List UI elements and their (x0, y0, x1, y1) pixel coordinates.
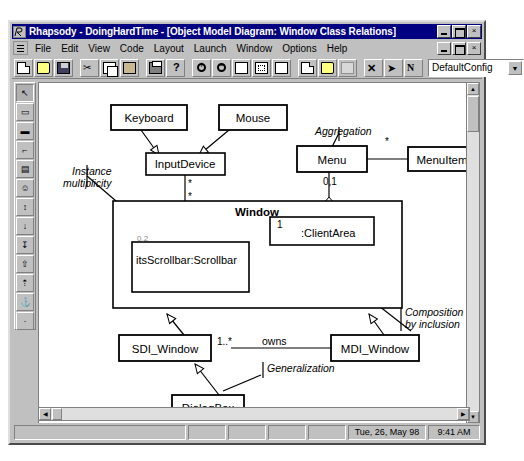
class-scrollbar-label: itsScrollbar:Scrollbar (136, 254, 237, 266)
dependency-tool[interactable]: ⇡ (16, 274, 34, 292)
class-scrollbar[interactable]: itsScrollbar:Scrollbar 0,2 (132, 234, 249, 292)
properties-icon[interactable] (338, 59, 357, 77)
diagram-canvas-frame[interactable]: Window itsScrollbar:Scrollbar 0,2 1 :Cli… (38, 82, 470, 424)
annotation-generalization: Generalization (267, 362, 335, 374)
mdi-minimize-button[interactable] (437, 42, 451, 55)
mdi-restore-button[interactable] (452, 42, 466, 55)
help-icon[interactable] (166, 59, 185, 77)
aggregation-tool[interactable]: ↓ (16, 217, 34, 235)
document-menu-icon[interactable] (13, 41, 28, 55)
browse-icon[interactable] (318, 59, 337, 77)
association-tool[interactable]: ↕ (16, 198, 34, 216)
status-date: Tue, 26, May 98 (348, 425, 426, 440)
horizontal-scroll-thumb[interactable] (52, 408, 62, 420)
status-bar: Tue, 26, May 98 9:41 AM (12, 423, 482, 441)
menu-item-view[interactable]: View (83, 42, 115, 55)
rhapsody-icon (13, 26, 26, 38)
composition-tool[interactable]: ↧ (16, 236, 34, 254)
multiplicity-inputdevice-bottom: * (188, 191, 192, 202)
rhapsody-logo-glyph (14, 27, 25, 37)
generalization-keyboard-inputdevice (141, 130, 159, 155)
select-tool[interactable]: ↖ (16, 84, 34, 102)
cut-icon[interactable]: ✂ (80, 59, 99, 77)
scroll-right-button[interactable]: ▶ (457, 408, 469, 420)
class-keyboard[interactable]: Keyboard (111, 105, 187, 130)
class-menu[interactable]: Menu (297, 146, 367, 172)
multiplicity-clientarea: 1 (277, 219, 283, 230)
next-icon[interactable]: N (404, 59, 423, 77)
status-pane-4 (308, 425, 346, 440)
annotation-instance: Instance (72, 165, 112, 177)
class-inputdevice[interactable]: InputDevice (146, 153, 225, 175)
menu-item-window[interactable]: Window (232, 42, 278, 55)
menu-item-code[interactable]: Code (115, 42, 149, 55)
menu-item-help[interactable]: Help (322, 42, 353, 55)
class-mdi-window-label: MDI_Window (341, 343, 410, 355)
anchor-tool[interactable]: ⚓ (16, 293, 34, 311)
class-clientarea[interactable]: 1 :ClientArea (270, 217, 374, 245)
main-toolbar: ✂ ✕ ➤ N DefaultConfig ▼ (12, 57, 482, 79)
title-bar: Rhapsody - DoingHardTime - [Object Model… (12, 24, 482, 39)
generalization-mouse-inputdevice (199, 130, 229, 155)
delete-icon[interactable]: ✕ (364, 59, 383, 77)
generalization-tool[interactable]: ⇧ (16, 255, 34, 273)
print-icon[interactable] (146, 59, 165, 77)
scroll-up-button[interactable]: ▲ (467, 83, 479, 95)
close-button[interactable]: × (467, 25, 481, 38)
horizontal-scrollbar[interactable]: ◀ ▶ (38, 407, 470, 421)
menu-item-options[interactable]: Options (277, 42, 321, 55)
class-sdi-window-label: SDI_Window (132, 343, 199, 355)
class-mouse[interactable]: Mouse (219, 105, 287, 130)
label-owns: owns (262, 335, 287, 347)
multiplicity-inputdevice-top: * (188, 178, 192, 189)
text-tool[interactable]: · (16, 312, 34, 330)
actor-tool[interactable]: ☺ (16, 179, 34, 197)
drawing-tool-palette: ↖ ▭ ▬ ⌐ ▤ ☺ ↕ ↓ ↧ ⇧ ⇡ ⚓ · (14, 82, 36, 330)
class-menuitem-label: MenuItem (416, 154, 467, 166)
status-pane-3 (268, 425, 306, 440)
configuration-combo[interactable]: DefaultConfig ▼ (428, 59, 524, 77)
zoom-in-icon[interactable] (192, 59, 211, 77)
zoom-selection-icon[interactable] (252, 59, 271, 77)
class-scrollbar-box[interactable] (132, 242, 249, 292)
object-model-diagram[interactable]: Window itsScrollbar:Scrollbar 0,2 1 :Cli… (39, 83, 470, 424)
new-file-icon[interactable] (14, 59, 33, 77)
application-window: Rhapsody - DoingHardTime - [Object Model… (8, 20, 486, 445)
save-file-icon[interactable] (54, 59, 73, 77)
run-icon[interactable]: ➤ (384, 59, 403, 77)
window-title: Rhapsody - DoingHardTime - [Object Model… (29, 26, 437, 37)
package-tool[interactable]: ⌐ (16, 141, 34, 159)
class-window-label: Window (235, 206, 279, 218)
zoom-out-icon[interactable] (212, 59, 231, 77)
class-sdi-window[interactable]: SDI_Window (119, 335, 211, 361)
menu-item-launch[interactable]: Launch (189, 42, 232, 55)
zoom-fit-icon[interactable] (232, 59, 251, 77)
minimize-button[interactable] (437, 25, 451, 38)
class-tool[interactable]: ▭ (16, 103, 34, 121)
class-mdi-window[interactable]: MDI_Window (331, 335, 419, 361)
chevron-down-icon[interactable]: ▼ (508, 61, 522, 75)
vertical-scrollbar[interactable]: ▲ ▼ (466, 82, 480, 424)
generalization-sdi-window (167, 314, 184, 335)
annotation-multiplicity: multiplicity (63, 177, 112, 189)
new-diagram-icon[interactable] (298, 59, 317, 77)
class-keyboard-label: Keyboard (124, 112, 173, 124)
paste-icon[interactable] (120, 59, 139, 77)
open-file-icon[interactable] (34, 59, 53, 77)
menu-item-layout[interactable]: Layout (149, 42, 189, 55)
window-controls: × (437, 25, 481, 38)
refresh-icon[interactable] (272, 59, 291, 77)
note-tool[interactable]: ▤ (16, 160, 34, 178)
mdi-close-button[interactable]: × (467, 42, 481, 55)
menu-item-file[interactable]: File (30, 42, 56, 55)
class-inputdevice-label: InputDevice (155, 158, 216, 170)
object-tool[interactable]: ▬ (16, 122, 34, 140)
scroll-left-button[interactable]: ◀ (39, 408, 51, 420)
menu-item-edit[interactable]: Edit (56, 42, 83, 55)
multiplicity-menuitem: * (385, 136, 389, 147)
class-menuitem[interactable]: MenuItem (408, 147, 470, 171)
vertical-scroll-thumb[interactable] (467, 96, 479, 132)
annotation-aggregation: Aggregation (314, 125, 372, 137)
maximize-button[interactable] (452, 25, 466, 38)
copy-icon[interactable] (100, 59, 119, 77)
